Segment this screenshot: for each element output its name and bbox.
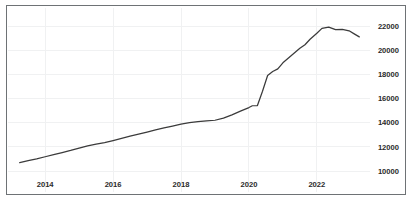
y-axis-tick-labels: 10000120001400016000180002000022000 — [378, 22, 399, 176]
x-axis-tick-label: 2022 — [308, 180, 325, 189]
data-line-series-1 — [20, 27, 360, 162]
x-axis-tick-label: 2020 — [240, 180, 257, 189]
x-axis-tick-label: 2016 — [105, 180, 122, 189]
horizontal-gridlines — [8, 26, 370, 171]
y-axis-tick-label: 14000 — [378, 118, 399, 127]
y-axis-tick-label: 22000 — [378, 22, 399, 31]
data-series-group — [20, 27, 360, 162]
chart-widget: 10000120001400016000180002000022000 2014… — [0, 0, 414, 208]
y-axis-tick-label: 20000 — [378, 46, 399, 55]
vertical-gridlines — [45, 8, 317, 192]
y-axis-tick-label: 18000 — [378, 70, 399, 79]
y-axis-tick-label: 16000 — [378, 94, 399, 103]
x-axis-tick-label: 2018 — [173, 180, 190, 189]
x-axis-tick-label: 2014 — [37, 180, 55, 189]
y-axis-tick-label: 10000 — [378, 167, 399, 176]
line-chart-plot: 10000120001400016000180002000022000 2014… — [0, 0, 414, 208]
y-axis-tick-label: 12000 — [378, 143, 399, 152]
x-axis-tick-labels: 20142016201820202022 — [37, 180, 326, 189]
